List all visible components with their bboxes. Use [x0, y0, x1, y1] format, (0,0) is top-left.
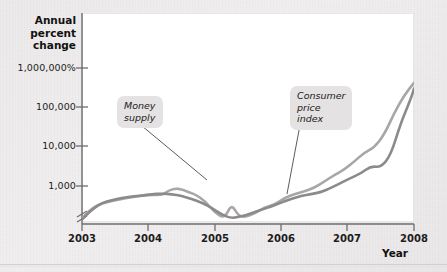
chart-canvas — [0, 0, 447, 272]
chart-figure: Annual percent change 1,000,000% 100,000… — [0, 0, 447, 272]
annotation-money-supply: Money supply — [117, 96, 163, 128]
leader-line-money-supply — [136, 121, 207, 180]
x-tick-label-2004: 2004 — [128, 233, 168, 244]
x-axis-ticks — [82, 224, 414, 231]
x-tick-label-2005: 2005 — [195, 233, 235, 244]
leader-line-consumer-price-index — [287, 125, 300, 194]
x-axis-label: Year — [382, 247, 408, 259]
footer-divider-secondary — [0, 266, 447, 267]
footer-divider — [0, 264, 447, 265]
x-tick-label-2003: 2003 — [62, 233, 102, 244]
annotation-consumer-price-index: Consumer price index — [290, 86, 352, 130]
x-tick-label-2006: 2006 — [261, 233, 301, 244]
x-tick-label-2008: 2008 — [394, 233, 434, 244]
x-tick-label-2007: 2007 — [327, 233, 367, 244]
annotation-leader-lines — [136, 121, 300, 194]
